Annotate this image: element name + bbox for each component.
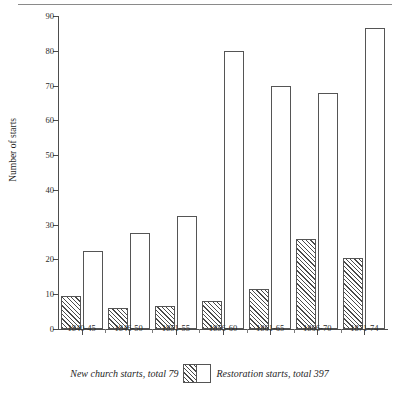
chart-legend: New church starts, total 79 Restoration … bbox=[0, 364, 399, 383]
bar-restoration-1851-55 bbox=[177, 216, 197, 329]
legend-swatch-new-church bbox=[184, 365, 197, 382]
x-tick-minor bbox=[247, 329, 248, 333]
bar-restoration-1840-45 bbox=[83, 251, 103, 329]
y-tick-label: 70 bbox=[46, 81, 55, 90]
legend-swatch-restoration bbox=[197, 365, 210, 382]
x-tick-label: 1866-70 bbox=[303, 324, 331, 333]
y-tick-label: 50 bbox=[46, 151, 55, 160]
plot-area: 0102030405060708090 bbox=[58, 16, 388, 330]
x-tick-minor bbox=[199, 329, 200, 333]
y-tick-label: 20 bbox=[46, 255, 55, 264]
y-tick-label: 80 bbox=[46, 47, 55, 56]
bar-new-church-1866-70 bbox=[296, 239, 316, 329]
bar-new-church-1871-74 bbox=[343, 258, 363, 329]
x-tick-minor bbox=[341, 329, 342, 333]
y-axis-title: Number of starts bbox=[8, 118, 18, 182]
bar-restoration-1866-70 bbox=[318, 93, 338, 329]
top-divider-rule bbox=[18, 4, 392, 5]
x-tick-minor bbox=[105, 329, 106, 333]
x-tick-label: 1856-60 bbox=[209, 324, 237, 333]
y-tick-label: 60 bbox=[46, 116, 55, 125]
x-tick-label: 1871-74 bbox=[350, 324, 378, 333]
legend-label-restoration: Restoration starts, total 397 bbox=[217, 368, 329, 379]
bar-restoration-1856-60 bbox=[224, 51, 244, 329]
y-tick-label: 0 bbox=[50, 325, 54, 334]
bar-restoration-1861-65 bbox=[271, 86, 291, 329]
y-axis-line bbox=[58, 16, 59, 330]
x-tick-minor bbox=[294, 329, 295, 333]
legend-label-new-church: New church starts, total 79 bbox=[70, 368, 178, 379]
y-tick-label: 10 bbox=[46, 290, 55, 299]
x-tick-label: 1840-45 bbox=[67, 324, 95, 333]
y-tick-label: 40 bbox=[46, 186, 55, 195]
legend-swatch-pair bbox=[183, 364, 211, 383]
x-tick-minor bbox=[152, 329, 153, 333]
x-tick-label: 1851-55 bbox=[162, 324, 190, 333]
x-tick-label: 1861-65 bbox=[256, 324, 284, 333]
chart-figure: Number of starts 0102030405060708090 184… bbox=[0, 0, 399, 406]
x-tick-label: 1846-50 bbox=[115, 324, 143, 333]
bar-restoration-1871-74 bbox=[365, 28, 385, 329]
y-tick-label: 90 bbox=[46, 12, 55, 21]
bar-restoration-1846-50 bbox=[130, 233, 150, 329]
y-tick-label: 30 bbox=[46, 220, 55, 229]
